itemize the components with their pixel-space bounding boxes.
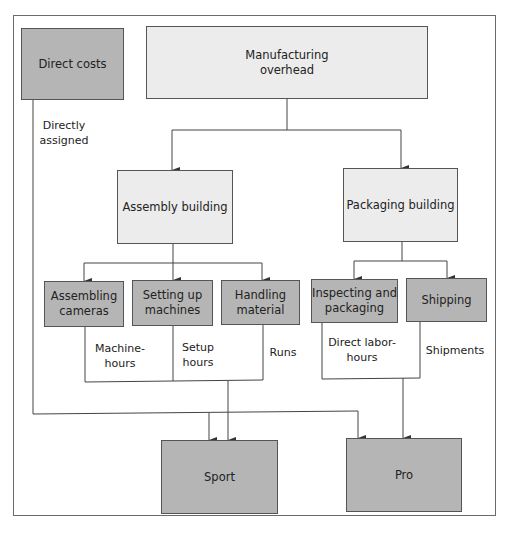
product-sport-label: Sport bbox=[204, 470, 235, 485]
product-sport-box: Sport bbox=[161, 440, 278, 514]
manufacturing-overhead-box: Manufacturing overhead bbox=[146, 26, 428, 99]
driver-runs: Runs bbox=[266, 345, 300, 360]
driver-machine-hours: Machine-hours bbox=[88, 341, 152, 371]
driver-direct-labor-hours: Direct labor-hours bbox=[324, 335, 400, 365]
product-pro-box: Pro bbox=[346, 438, 462, 512]
activity-inspecting-packaging: Inspecting andpackaging bbox=[311, 279, 398, 323]
driver-setup-hours: Setuphours bbox=[176, 340, 220, 370]
assembly-building-box: Assembly building bbox=[117, 170, 233, 244]
direct-costs-box: Direct costs bbox=[21, 28, 124, 100]
driver-shipments: Shipments bbox=[422, 343, 488, 358]
overhead-line1: Manufacturing bbox=[245, 48, 328, 63]
overhead-line2: overhead bbox=[245, 63, 328, 78]
activity-assembling-cameras: Assemblingcameras bbox=[44, 281, 124, 327]
assembly-building-label: Assembly building bbox=[122, 200, 227, 215]
direct-costs-label: Direct costs bbox=[39, 57, 107, 72]
activity-shipping: Shipping bbox=[406, 278, 487, 322]
activity-setting-up-machines: Setting upmachines bbox=[132, 280, 213, 326]
packaging-building-label: Packaging building bbox=[346, 198, 454, 213]
activity-handling-material: Handlingmaterial bbox=[221, 280, 300, 325]
directly-assigned-label: Directly assigned bbox=[30, 118, 98, 148]
product-pro-label: Pro bbox=[395, 468, 413, 483]
packaging-building-box: Packaging building bbox=[343, 168, 458, 242]
